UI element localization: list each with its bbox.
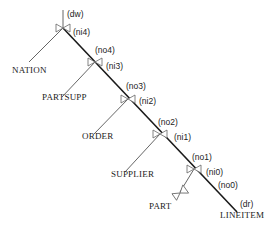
port-no3: (no3) <box>126 81 146 91</box>
port-no4: (no4) <box>95 45 115 55</box>
relation-order: ORDER <box>82 131 114 141</box>
port-no1: (no1) <box>192 152 212 162</box>
relation-partsupp: PARTSUPP <box>42 92 87 102</box>
port-ni3: (ni3) <box>106 61 123 71</box>
part-scan-node <box>171 185 188 201</box>
relation-lineitem: LINEITEM <box>220 210 264 220</box>
port-no2: (no2) <box>158 117 178 127</box>
port-no0: (no0) <box>218 180 238 190</box>
port-ni0: (ni0) <box>206 167 223 177</box>
bowtie-icon <box>88 58 102 66</box>
port-dr: (dr) <box>240 199 253 209</box>
port-dw: (dw) <box>67 9 84 19</box>
relation-supplier: SUPPLIER <box>111 169 154 179</box>
port-ni2: (ni2) <box>139 96 156 106</box>
main-pipeline-edge <box>63 28 237 212</box>
port-ni1: (ni1) <box>174 132 191 142</box>
join-tree-diagram: NATION PARTSUPP ORDER SUPPLIER PART LINE… <box>0 0 270 233</box>
port-ni4: (ni4) <box>73 27 90 37</box>
join-node-3 <box>88 58 102 66</box>
triangle-icon <box>171 185 188 201</box>
relation-nation: NATION <box>12 65 47 75</box>
order-edge <box>94 99 128 134</box>
supplier-edge <box>125 134 160 172</box>
nation-edge <box>29 28 63 62</box>
relation-part: PART <box>149 201 172 211</box>
